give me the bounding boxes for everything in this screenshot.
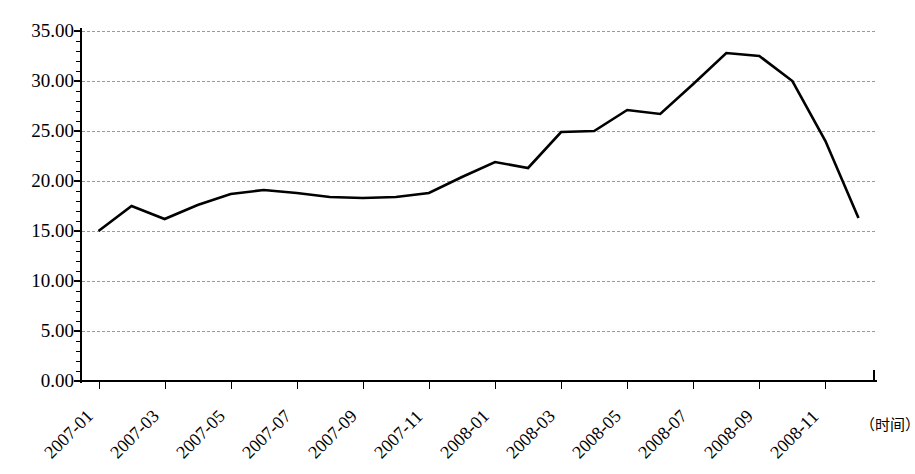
x-axis-tick-label: 2007-01 — [41, 407, 96, 462]
x-axis-tick-label: 2007-03 — [107, 407, 162, 462]
x-axis-tick-label: 2007-11 — [371, 407, 426, 462]
x-axis-tick-label: 2007-05 — [173, 407, 228, 462]
x-axis-title: （时间） — [860, 418, 915, 433]
x-axis-tick-label: 2008-11 — [767, 407, 822, 462]
x-axis-tick-label: 2007-09 — [305, 407, 360, 462]
x-axis-tick-label: 2008-05 — [569, 407, 624, 462]
x-axis-tick-label: 2008-09 — [701, 407, 756, 462]
x-axis-tick-label: 2007-07 — [239, 407, 294, 462]
x-axis-tick-label: 2008-01 — [437, 407, 492, 462]
x-axis-tick-label: 2008-07 — [635, 407, 690, 462]
x-axis-tick-label: 2008-03 — [503, 407, 558, 462]
